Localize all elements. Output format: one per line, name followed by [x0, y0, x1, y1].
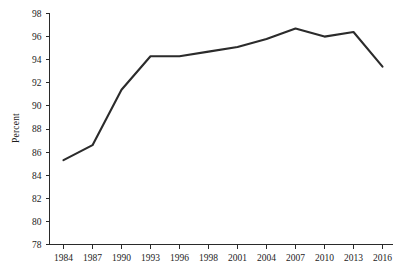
y-tick-label: 82: [32, 194, 42, 204]
x-tick-label: 2004: [257, 253, 276, 263]
x-tick-marks: [64, 245, 383, 249]
x-tick-label: 1984: [54, 253, 73, 263]
chart-canvas: 7880828486889092949698 19841987199019931…: [0, 0, 403, 277]
y-tick-label: 94: [32, 55, 42, 65]
y-tick-label: 96: [32, 32, 42, 42]
y-tick-labels: 7880828486889092949698: [32, 9, 42, 250]
y-axis-title: Percent: [11, 113, 21, 143]
x-tick-label: 2013: [344, 253, 363, 263]
x-tick-label: 1987: [83, 253, 102, 263]
x-tick-labels: 1984198719901993199619982001200420072010…: [54, 253, 392, 263]
y-tick-label: 90: [32, 101, 42, 111]
x-tick-label: 1990: [112, 253, 131, 263]
line-chart: 7880828486889092949698 19841987199019931…: [0, 0, 403, 277]
x-tick-label: 2016: [373, 253, 392, 263]
x-tick-label: 2010: [315, 253, 334, 263]
y-tick-label: 86: [32, 148, 42, 158]
x-tick-label: 1993: [141, 253, 160, 263]
y-tick-label: 84: [32, 171, 42, 181]
y-tick-marks: [46, 14, 50, 245]
y-tick-label: 78: [32, 240, 42, 250]
y-tick-label: 80: [32, 217, 42, 227]
x-tick-label: 1998: [199, 253, 218, 263]
y-tick-label: 88: [32, 124, 42, 134]
data-series-line: [64, 29, 383, 161]
y-tick-label: 98: [32, 9, 42, 19]
x-tick-label: 2007: [286, 253, 305, 263]
x-tick-label: 2001: [228, 253, 247, 263]
x-tick-label: 1996: [170, 253, 189, 263]
y-tick-label: 92: [32, 78, 42, 88]
